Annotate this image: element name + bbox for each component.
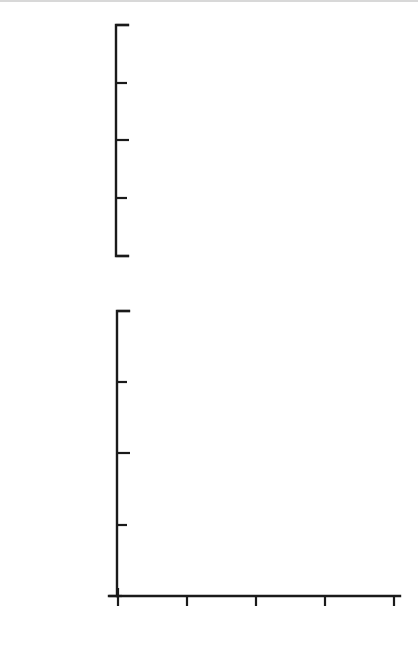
top-panel-svg [0,0,418,290]
bottom-panel-counts [0,290,418,662]
top-panel-bf-motilin [0,0,418,290]
bottom-panel-svg [0,290,418,662]
figure-root [0,0,418,662]
